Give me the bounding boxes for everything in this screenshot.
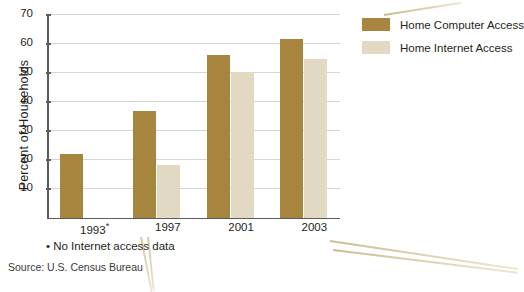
legend-swatch	[362, 41, 390, 54]
y-axis-tick	[46, 159, 51, 161]
y-axis-tick-label: 50	[7, 65, 33, 77]
x-axis-tick-label: 2001	[201, 221, 281, 233]
bar	[231, 72, 254, 217]
bar-group	[60, 14, 107, 218]
bar	[60, 154, 83, 218]
x-axis-line	[47, 218, 340, 220]
x-axis-tick-label: 2003	[274, 221, 354, 233]
y-axis-tick	[46, 188, 51, 190]
x-axis-tick-label: 1997	[128, 221, 208, 233]
source-note: Source: U.S. Census Bureau	[8, 261, 143, 273]
y-axis-tick-label: 20	[7, 152, 33, 164]
legend-label: Home Internet Access	[400, 42, 513, 54]
y-axis-tick	[46, 14, 51, 16]
bar	[280, 39, 303, 218]
legend-label: Home Computer Access	[400, 19, 524, 31]
pointer-line-bottom-right-1	[330, 240, 518, 270]
bar-group	[207, 14, 254, 218]
y-axis-tick-label: 60	[7, 36, 33, 48]
plot-area: 10203040506070 1993*199720012003	[47, 14, 340, 219]
y-axis-tick-label: 40	[7, 94, 33, 106]
legend-swatch	[362, 18, 390, 31]
y-axis-tick	[46, 72, 51, 74]
bar	[157, 165, 180, 217]
footnote: • No Internet access data	[46, 240, 175, 252]
bar	[304, 59, 327, 217]
legend-item: Home Computer Access	[362, 18, 524, 31]
chart-legend: Home Computer AccessHome Internet Access	[362, 18, 524, 64]
bar	[207, 55, 230, 218]
x-axis-tick-label: 1993*	[55, 221, 135, 236]
legend-item: Home Internet Access	[362, 41, 524, 54]
y-axis-tick-label: 70	[7, 7, 33, 19]
y-axis-tick	[46, 130, 51, 132]
pointer-line-top	[384, 2, 461, 16]
bar-group	[133, 14, 180, 218]
y-axis-tick	[46, 43, 51, 45]
pointer-line-bottom-right-2	[333, 249, 518, 274]
y-axis-tick-label: 30	[7, 123, 33, 135]
y-axis-tick-label: 10	[7, 181, 33, 193]
bar	[133, 111, 156, 217]
bar-group	[280, 14, 327, 218]
y-axis-tick	[46, 101, 51, 103]
